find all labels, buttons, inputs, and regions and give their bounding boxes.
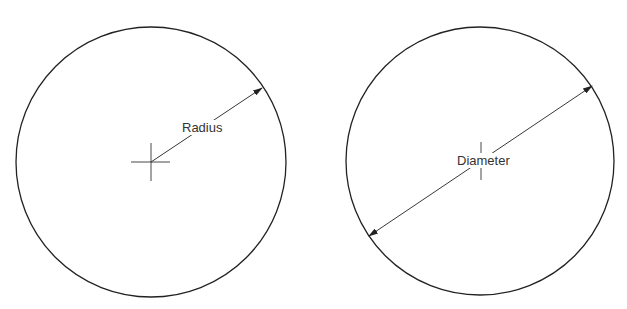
diameter-label: Diameter xyxy=(455,153,512,168)
radius-label: Radius xyxy=(180,120,224,135)
circle-diagram xyxy=(0,0,627,309)
radius-circle xyxy=(16,27,286,297)
